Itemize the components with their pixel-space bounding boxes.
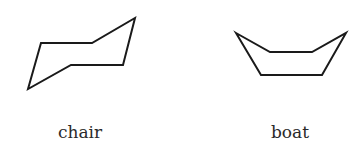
chair-conformation-shape [28, 18, 135, 89]
boat-conformation-shape [236, 33, 346, 75]
boat-label: boat [250, 122, 330, 142]
chair-label: chair [40, 122, 120, 142]
